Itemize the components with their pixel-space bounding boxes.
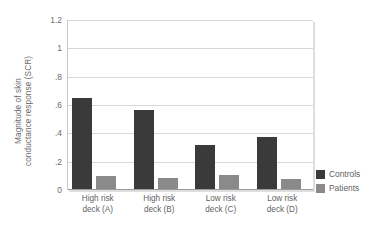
bar-controls-1	[134, 110, 154, 189]
plot-area	[67, 20, 313, 190]
gridline	[68, 48, 313, 49]
gridline	[68, 105, 313, 106]
y-axis-title-line-1: Magnitude of skin	[14, 16, 24, 206]
x-axis-tick-label-0: High riskdeck (A)	[67, 194, 129, 215]
x-axis-line	[68, 189, 313, 190]
x-axis-tick-label-line: deck (A)	[67, 205, 129, 216]
legend-swatch-icon	[316, 184, 325, 193]
y-axis-title-line-2: conductance response (SCR)	[24, 16, 34, 206]
y-axis-tick-label: 1	[38, 44, 62, 52]
legend-swatch-icon	[316, 170, 325, 179]
x-axis-tick-label-2: Low riskdeck (C)	[190, 194, 252, 215]
bar-controls-3	[257, 137, 277, 189]
x-axis-tick-label-line: deck (D)	[251, 205, 313, 216]
bar-patients-0	[96, 176, 116, 189]
x-axis-tick-label-1: High riskdeck (B)	[128, 194, 190, 215]
x-axis-tick-label-line: High risk	[128, 194, 190, 205]
bar-patients-1	[158, 178, 178, 189]
x-axis-tick-label-line: deck (C)	[190, 205, 252, 216]
bar-controls-0	[72, 98, 92, 189]
y-axis-tick-label: .2	[38, 158, 62, 166]
gridline	[68, 133, 313, 134]
legend-item-patients: Patients	[316, 182, 380, 194]
x-axis-tick-label-3: Low riskdeck (D)	[251, 194, 313, 215]
legend-label: Patients	[329, 183, 359, 193]
bar-chart-figure: Magnitude of skin conductance response (…	[0, 0, 382, 246]
x-axis-tick-label-line: Low risk	[251, 194, 313, 205]
gridline	[68, 77, 313, 78]
x-axis-tick-labels: High riskdeck (A)High riskdeck (B)Low ri…	[67, 194, 313, 228]
legend-item-controls: Controls	[316, 168, 380, 180]
y-axis-tick-label: .4	[38, 129, 62, 137]
chart-legend: ControlsPatients	[316, 168, 380, 196]
x-axis-tick-label-line: Low risk	[190, 194, 252, 205]
bar-patients-2	[219, 175, 239, 189]
bar-patients-3	[281, 179, 301, 189]
y-axis-tick-label: .6	[38, 101, 62, 109]
y-axis-tick-labels: 0.2.4.6.811.2	[36, 0, 62, 246]
y-axis-tick-label: 1.2	[38, 16, 62, 24]
y-axis-tick-label: .8	[38, 73, 62, 81]
legend-label: Controls	[329, 169, 360, 179]
x-axis-tick-label-line: deck (B)	[128, 205, 190, 216]
gridline	[68, 20, 313, 21]
bar-controls-2	[195, 145, 215, 189]
y-axis-tick-label: 0	[38, 186, 62, 194]
x-axis-tick-label-line: High risk	[67, 194, 129, 205]
